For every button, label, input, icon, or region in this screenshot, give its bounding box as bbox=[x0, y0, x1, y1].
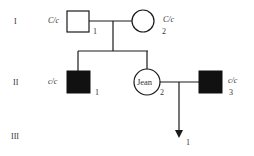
pedigree-diagram bbox=[0, 0, 254, 156]
name-II2: Jean bbox=[137, 78, 152, 87]
generation-label-III: III bbox=[11, 133, 19, 141]
number-III1: 1 bbox=[186, 139, 190, 147]
generation-label-I: I bbox=[14, 18, 17, 26]
genotype-II1: c/c bbox=[48, 78, 57, 86]
number-II2: 2 bbox=[160, 89, 164, 97]
individual-I2-circle bbox=[132, 10, 154, 32]
individual-II3-square bbox=[199, 71, 222, 93]
individual-I1-square bbox=[67, 11, 89, 32]
arrow-icon bbox=[175, 130, 183, 138]
number-II3: 3 bbox=[229, 89, 233, 97]
number-II1: 1 bbox=[95, 89, 99, 97]
genotype-II3: c/c bbox=[228, 77, 237, 85]
number-I1: 1 bbox=[93, 28, 97, 36]
individual-II1-square bbox=[67, 71, 90, 93]
generation-label-II: II bbox=[13, 79, 18, 87]
genotype-I1: C/c bbox=[48, 17, 59, 25]
number-I2: 2 bbox=[162, 28, 166, 36]
genotype-I2: C/c bbox=[163, 16, 174, 24]
